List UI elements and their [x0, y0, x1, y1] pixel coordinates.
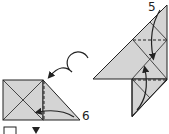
- step-5-label: 5: [148, 1, 156, 13]
- triangle-down-icon: [32, 127, 40, 134]
- step-6-label: 6: [82, 110, 90, 122]
- square-outline-icon: [4, 127, 16, 134]
- step-6-figure: [3, 80, 80, 120]
- turn-over-icon: [50, 52, 88, 76]
- step-5-figure: [93, 5, 167, 117]
